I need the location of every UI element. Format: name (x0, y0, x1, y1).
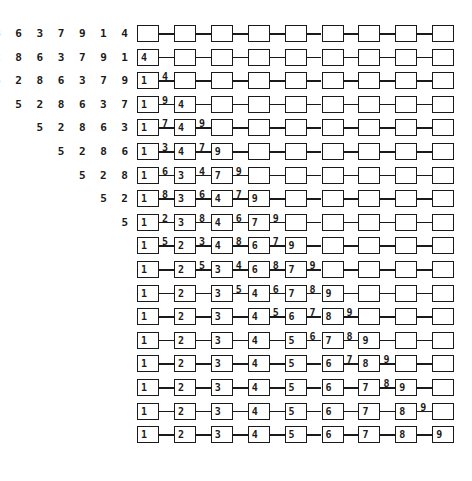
list-node-box (395, 332, 417, 349)
link-line (196, 387, 211, 389)
link-line (196, 33, 211, 35)
link-line (196, 57, 211, 59)
link-line (417, 104, 432, 106)
diagram-row: 5 2 8 6 37914 (0, 119, 472, 137)
link-line: 9 (196, 127, 211, 129)
remaining-input-sequence: 5 2 8 6 3 7 9 (0, 73, 132, 89)
link-line (344, 104, 359, 106)
edge-label: 6 (273, 285, 279, 295)
edge-label: 4 (162, 72, 168, 82)
edge-label: 6 (162, 167, 168, 177)
diagram-row: 548912367 (0, 261, 472, 279)
link-line (196, 363, 211, 365)
link-line (270, 175, 285, 177)
list-node-box (432, 72, 454, 89)
edge-label: 7 (310, 308, 316, 318)
list-node-box: 4 (174, 143, 196, 160)
link-line: 3 (159, 151, 174, 153)
link-line (344, 80, 359, 82)
link-line (344, 33, 359, 35)
link-line: 4 (196, 175, 211, 177)
list-node-box: 1 (137, 285, 159, 302)
list-node-box (432, 25, 454, 42)
link-line: 3 (196, 245, 211, 247)
list-node-box (358, 308, 380, 325)
list-node-box (432, 190, 454, 207)
link-line: 6 (270, 293, 285, 295)
list-node-box (395, 237, 417, 254)
list-node-box: 1 (137, 72, 159, 89)
link-line (344, 293, 359, 295)
link-line: 7 (307, 316, 322, 318)
list-node-box (285, 190, 307, 207)
link-line (344, 151, 359, 153)
remaining-input-sequence: 5 2 8 6 3 7 9 1 (0, 50, 132, 66)
list-node-box (211, 72, 233, 89)
diagram-row: 5 2 8649137 (0, 167, 472, 185)
list-node-box: 2 (174, 379, 196, 396)
link-line (307, 198, 322, 200)
list-node-box (432, 119, 454, 136)
remaining-input-sequence: 5 2 8 (79, 168, 132, 184)
list-node-box (358, 190, 380, 207)
link-line (380, 151, 395, 153)
edge-label: 7 (199, 143, 205, 153)
list-node-box (358, 143, 380, 160)
list-node-box (248, 49, 270, 66)
link-line (417, 198, 432, 200)
list-node-box: 2 (174, 332, 196, 349)
list-node-box (358, 49, 380, 66)
list-node-box: 1 (137, 190, 159, 207)
link-line (196, 340, 211, 342)
list-node-box (174, 49, 196, 66)
list-node-box (395, 190, 417, 207)
link-line (270, 57, 285, 59)
list-node-box: 9 (248, 190, 270, 207)
list-node-box: 4 (137, 49, 159, 66)
link-line: 4 (233, 269, 248, 271)
link-line: 7 (196, 151, 211, 153)
link-line (159, 411, 174, 413)
diagram-row: 5 2 8 637149 (0, 143, 472, 161)
list-node-box (358, 119, 380, 136)
edge-label: 8 (383, 379, 389, 389)
link-line (196, 434, 211, 436)
list-node-box (358, 96, 380, 113)
list-node-box (432, 355, 454, 372)
list-node-box (395, 214, 417, 231)
link-line (307, 57, 322, 59)
list-node-box: 2 (174, 308, 196, 325)
list-node-box (358, 261, 380, 278)
link-line (159, 387, 174, 389)
diagram-row: 5 2 8 6 3 7 9 1 4 (0, 25, 472, 43)
list-node-box: 7 (248, 214, 270, 231)
list-node-box (174, 72, 196, 89)
edge-label: 9 (273, 214, 279, 224)
list-node-box (395, 285, 417, 302)
list-node-box: 1 (137, 96, 159, 113)
link-line (307, 151, 322, 153)
list-node-box (248, 25, 270, 42)
edge-label: 9 (310, 261, 316, 271)
link-line (380, 245, 395, 247)
link-line (270, 198, 285, 200)
list-node-box (285, 214, 307, 231)
edge-label: 8 (162, 190, 168, 200)
list-node-box (432, 237, 454, 254)
link-line (196, 411, 211, 413)
link-line (417, 293, 432, 295)
link-line (307, 175, 322, 177)
list-node-box (432, 285, 454, 302)
link-line (233, 387, 248, 389)
link-line (270, 80, 285, 82)
list-node-box (248, 96, 270, 113)
link-line (159, 434, 174, 436)
diagram-row: 5 28671349 (0, 190, 472, 208)
list-node-box (395, 25, 417, 42)
link-line (233, 127, 248, 129)
edge-label: 2 (162, 214, 168, 224)
link-line (344, 245, 359, 247)
list-node-box (285, 72, 307, 89)
list-node-box: 6 (248, 261, 270, 278)
list-node-box (395, 261, 417, 278)
